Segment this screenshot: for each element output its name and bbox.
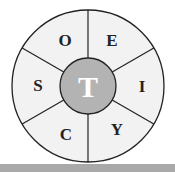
- segment-letter: O: [58, 31, 71, 50]
- segment-letter: E: [106, 31, 117, 50]
- bottom-divider-bar: [0, 164, 175, 172]
- segment-letter: C: [60, 125, 72, 144]
- segment-letter: Y: [111, 120, 123, 139]
- center-letter: T: [78, 70, 98, 103]
- segment-letter: I: [139, 77, 146, 96]
- segment-letter: S: [33, 76, 42, 95]
- letter-wheel-diagram: T O E I Y C S: [0, 0, 175, 172]
